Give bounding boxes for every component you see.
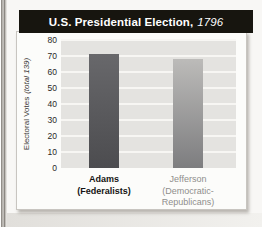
gridline xyxy=(61,55,236,57)
y-tick-label: 0 xyxy=(35,163,57,173)
chart-title: U.S. Presidential Election, xyxy=(49,16,194,28)
plot-area: 01020304050607080Adams(Federalists)Jeffe… xyxy=(61,40,236,168)
gridline xyxy=(61,151,236,153)
gridline xyxy=(61,135,236,137)
x-category-label-line: Jefferson xyxy=(133,174,243,186)
y-tick-label: 70 xyxy=(35,51,57,61)
y-tick-label: 20 xyxy=(35,131,57,141)
gridline xyxy=(61,87,236,89)
y-tick-label: 10 xyxy=(35,147,57,157)
y-axis-label: Electoral Votes(total 139) xyxy=(22,29,34,179)
x-category-label-line: Republicans) xyxy=(133,197,243,209)
y-tick-label: 30 xyxy=(35,115,57,125)
x-category-label: Jefferson(Democratic-Republicans) xyxy=(133,174,243,209)
page-edge-binding xyxy=(0,0,7,227)
gridline xyxy=(61,71,236,73)
y-tick-label: 50 xyxy=(35,83,57,93)
y-tick-label: 60 xyxy=(35,67,57,77)
y-tick-label: 40 xyxy=(35,99,57,109)
x-category-label-line: (Democratic- xyxy=(133,186,243,198)
y-axis-label-note: (total 139) xyxy=(22,58,31,94)
page-bottom-strip xyxy=(7,213,262,227)
chart-title-year: 1796 xyxy=(197,16,223,28)
y-axis-label-text: Electoral Votes xyxy=(22,97,31,150)
y-tick-label: 80 xyxy=(35,35,57,45)
chart-card: Electoral Votes(total 139) 0102030405060… xyxy=(16,31,247,210)
chart-title-bar: U.S. Presidential Election, 1796 xyxy=(19,10,253,33)
gridline xyxy=(61,119,236,121)
bar-jefferson xyxy=(173,59,203,168)
gridline xyxy=(61,39,236,41)
bar-adams xyxy=(89,54,119,168)
gridline xyxy=(61,103,236,105)
